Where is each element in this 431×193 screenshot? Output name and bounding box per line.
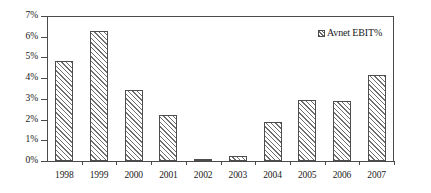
- y-axis-tick: [41, 37, 47, 38]
- bar: [159, 115, 177, 161]
- x-axis-tick-label: 2000: [116, 170, 151, 180]
- y-axis-tick-label: 4%: [26, 73, 38, 83]
- y-axis-tick: [41, 78, 47, 79]
- x-axis-tick-label: 2007: [359, 170, 394, 180]
- y-axis-tick-label: 0%: [26, 156, 38, 166]
- bar: [333, 101, 351, 161]
- x-axis-tick-label: 1999: [82, 170, 117, 180]
- bar: [194, 159, 212, 161]
- x-axis-tick-label: 1998: [47, 170, 82, 180]
- y-axis-tick-label: 7%: [26, 11, 38, 21]
- x-axis-tick: [325, 161, 326, 165]
- x-axis-tick-label: 2006: [325, 170, 360, 180]
- x-axis-tick-label: 2002: [186, 170, 221, 180]
- y-axis-tick: [41, 16, 47, 17]
- x-axis-tick-label: 2004: [255, 170, 290, 180]
- x-axis-tick: [82, 161, 83, 165]
- y-axis-tick-label: 5%: [26, 52, 38, 62]
- x-axis-tick: [394, 161, 395, 165]
- y-axis-tick: [41, 99, 47, 100]
- x-axis-tick: [221, 161, 222, 165]
- bar: [90, 31, 108, 162]
- x-axis-tick-label: 2003: [221, 170, 256, 180]
- legend-swatch-icon: [318, 30, 325, 37]
- x-axis-tick-label: 2005: [290, 170, 325, 180]
- y-axis-tick: [41, 57, 47, 58]
- x-axis-tick: [255, 161, 256, 165]
- y-axis-tick-label: 2%: [26, 115, 38, 125]
- y-axis-tick-label: 3%: [26, 94, 38, 104]
- y-axis-tick: [41, 120, 47, 121]
- x-axis-tick: [359, 161, 360, 165]
- bar: [368, 75, 386, 161]
- x-axis-tick: [116, 161, 117, 165]
- x-axis-tick: [186, 161, 187, 165]
- legend-label-avnet-ebit: Avnet EBIT%: [327, 28, 382, 38]
- y-axis-tick-label: 1%: [26, 135, 38, 145]
- bar: [229, 156, 247, 161]
- bar-chart: 0%1%2%3%4%5%6%7% 19981999200020012002200…: [0, 0, 431, 193]
- bar: [298, 100, 316, 161]
- bar: [125, 90, 143, 161]
- bar: [55, 61, 73, 161]
- y-axis-line: [47, 16, 48, 162]
- y-axis-tick-label: 6%: [26, 32, 38, 42]
- x-axis-tick-label: 2001: [151, 170, 186, 180]
- y-axis-tick: [41, 161, 47, 162]
- bar: [264, 122, 282, 161]
- y-axis-tick: [41, 140, 47, 141]
- x-axis-tick: [151, 161, 152, 165]
- x-axis-tick: [290, 161, 291, 165]
- legend: Avnet EBIT%: [318, 28, 382, 38]
